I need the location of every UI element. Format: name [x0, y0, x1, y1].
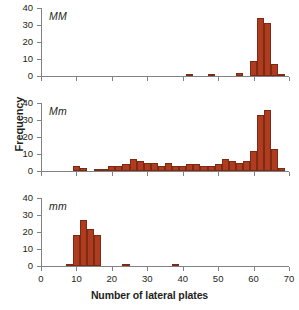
- y-tick-label: 10: [13, 53, 33, 64]
- x-tick: [112, 172, 113, 176]
- x-tick-label: 10: [66, 273, 86, 284]
- plot-area-mm: 010203040: [41, 103, 289, 172]
- histogram-bar: [186, 74, 193, 76]
- plot-area-mm: 010203040: [41, 8, 289, 77]
- histogram-bar: [215, 164, 222, 171]
- x-tick: [289, 172, 290, 176]
- x-tick: [76, 267, 77, 271]
- x-tick: [254, 267, 255, 271]
- x-tick: [41, 267, 42, 271]
- y-tick-label: 40: [13, 2, 33, 13]
- y-tick: [37, 59, 41, 60]
- histogram-bar: [208, 166, 215, 171]
- y-tick-label: 40: [13, 97, 33, 108]
- x-tick: [218, 267, 219, 271]
- histogram-bar: [186, 164, 193, 171]
- figure-histograms: Frequency Number of lateral plates MM 01…: [0, 0, 299, 310]
- x-tick-label: 0: [31, 273, 51, 284]
- histogram-bar: [271, 64, 278, 76]
- histogram-bar: [80, 220, 87, 266]
- histogram-bar: [243, 161, 250, 171]
- x-tick: [289, 77, 290, 81]
- x-tick-label: 60: [244, 273, 264, 284]
- histogram-bar: [151, 163, 158, 172]
- histogram-bar: [66, 264, 73, 266]
- histogram-bar: [250, 61, 257, 76]
- x-tick: [147, 172, 148, 176]
- histogram-bar: [264, 110, 271, 171]
- y-tick: [37, 215, 41, 216]
- histogram-bar: [94, 235, 101, 266]
- histogram-bar: [73, 235, 80, 266]
- y-tick-label: 30: [13, 19, 33, 30]
- y-tick-label: 0: [13, 165, 33, 176]
- y-tick-label: 0: [13, 260, 33, 271]
- histogram-bar: [208, 74, 215, 76]
- histogram-bar: [193, 164, 200, 171]
- x-tick: [183, 267, 184, 271]
- histogram-bar: [172, 264, 179, 266]
- x-tick: [76, 77, 77, 81]
- histogram-bar: [73, 166, 80, 171]
- x-tick-label: 70: [279, 273, 299, 284]
- x-tick-label: 40: [173, 273, 193, 284]
- y-tick-label: 0: [13, 70, 33, 81]
- y-tick-label: 20: [13, 131, 33, 142]
- y-tick-label: 40: [13, 192, 33, 203]
- histogram-bar: [200, 166, 207, 171]
- y-tick-label: 10: [13, 243, 33, 254]
- x-tick: [254, 172, 255, 176]
- y-axis-line: [41, 8, 42, 77]
- histogram-bar: [158, 166, 165, 171]
- x-tick: [147, 77, 148, 81]
- histogram-bar: [122, 264, 129, 266]
- histogram-bar: [278, 74, 285, 76]
- histogram-bar: [115, 166, 122, 171]
- x-tick: [112, 77, 113, 81]
- x-tick-label: 50: [208, 273, 228, 284]
- x-tick: [218, 172, 219, 176]
- x-axis-line: [41, 76, 289, 77]
- x-axis-title: Number of lateral plates: [0, 289, 299, 301]
- y-tick: [37, 137, 41, 138]
- histogram-bar: [80, 168, 87, 171]
- histogram-bar: [236, 73, 243, 76]
- x-tick: [183, 172, 184, 176]
- histogram-bar: [236, 163, 243, 172]
- y-tick-label: 30: [13, 209, 33, 220]
- histogram-bar: [257, 115, 264, 171]
- y-tick-label: 20: [13, 226, 33, 237]
- histogram-bar: [172, 166, 179, 171]
- histogram-bar: [229, 161, 236, 171]
- histogram-bar: [122, 164, 129, 171]
- plot-area-mm: 010203040010203040506070: [41, 198, 289, 267]
- x-tick-label: 30: [137, 273, 157, 284]
- y-tick: [37, 154, 41, 155]
- x-tick: [183, 77, 184, 81]
- y-axis-line: [41, 103, 42, 172]
- x-tick: [41, 172, 42, 176]
- y-tick: [37, 42, 41, 43]
- histogram-bar: [222, 159, 229, 171]
- histogram-bar: [250, 151, 257, 171]
- x-tick: [41, 77, 42, 81]
- histogram-bar: [101, 169, 108, 171]
- histogram-bar: [108, 166, 115, 171]
- x-tick: [254, 77, 255, 81]
- x-tick: [112, 267, 113, 271]
- x-tick: [76, 172, 77, 176]
- x-tick: [289, 267, 290, 271]
- y-tick: [37, 249, 41, 250]
- x-tick: [147, 267, 148, 271]
- y-tick-label: 30: [13, 114, 33, 125]
- histogram-bar: [257, 18, 264, 76]
- y-tick: [37, 103, 41, 104]
- histogram-bar: [179, 166, 186, 171]
- y-tick: [37, 8, 41, 9]
- y-tick-label: 20: [13, 36, 33, 47]
- x-axis-line: [41, 171, 289, 172]
- histogram-bar: [264, 23, 271, 76]
- y-axis-line: [41, 198, 42, 267]
- histogram-bar: [87, 229, 94, 266]
- y-tick: [37, 25, 41, 26]
